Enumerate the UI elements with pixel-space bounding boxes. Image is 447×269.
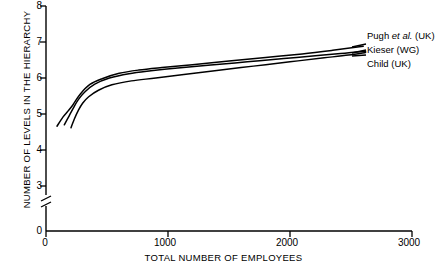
y-axis-break-mark-upper xyxy=(41,196,51,201)
plot-area xyxy=(0,0,447,269)
axes-group xyxy=(40,6,412,237)
chart-container: NUMBER OF LEVELS IN THE HIERARCHY TOTAL … xyxy=(0,0,447,269)
legend-leader-child xyxy=(352,55,366,56)
series-group xyxy=(57,46,366,127)
